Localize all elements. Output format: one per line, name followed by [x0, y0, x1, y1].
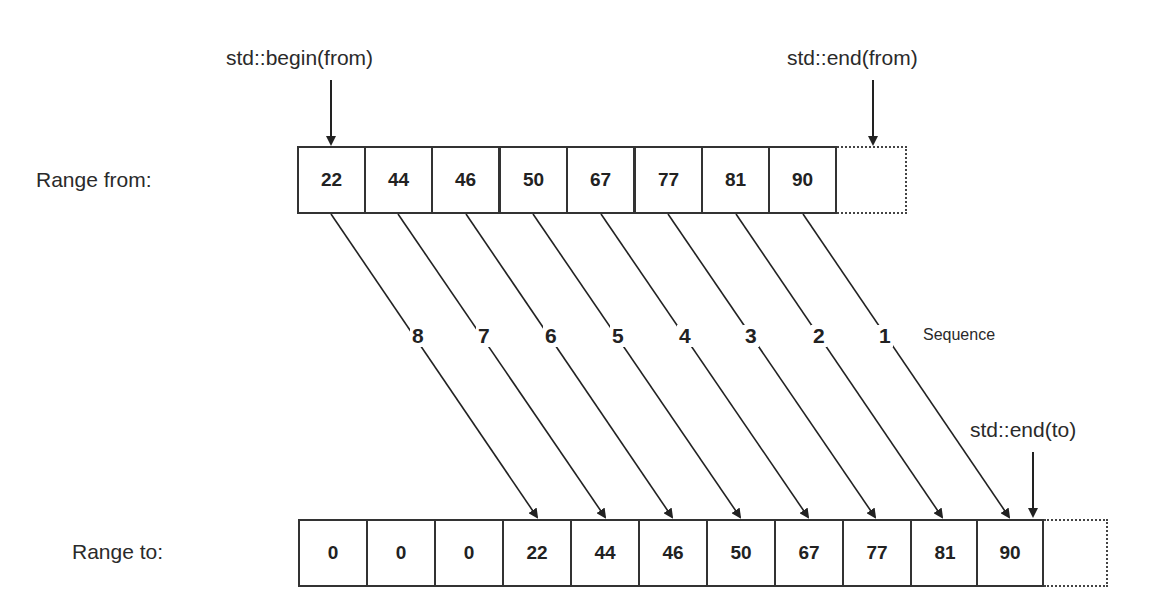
sequence-label: Sequence	[923, 326, 995, 344]
to-cell: 77	[842, 519, 912, 587]
to-cell: 67	[774, 519, 844, 587]
from-cell: 90	[768, 146, 837, 214]
to-cell: 46	[638, 519, 708, 587]
from-end-placeholder	[837, 146, 907, 214]
copy-arrow-8-icon	[331, 214, 537, 517]
sequence-step-2: 2	[811, 325, 827, 347]
to-cell: 0	[298, 519, 368, 587]
to-cell: 0	[434, 519, 504, 587]
sequence-step-8: 8	[410, 325, 426, 347]
sequence-step-6: 6	[543, 325, 559, 347]
copy-arrow-6-icon	[466, 214, 672, 517]
from-cell: 50	[499, 146, 568, 214]
to-cell: 50	[706, 519, 776, 587]
from-cell: 67	[566, 146, 635, 214]
from-cell: 81	[701, 146, 770, 214]
to-cell: 0	[366, 519, 436, 587]
copy-arrow-1-icon	[803, 214, 1009, 517]
sequence-step-7: 7	[476, 325, 492, 347]
to-cell: 90	[976, 519, 1044, 587]
sequence-step-5: 5	[610, 325, 626, 347]
to-cell: 44	[570, 519, 640, 587]
from-cell: 77	[634, 146, 703, 214]
to-end-placeholder	[1044, 519, 1108, 587]
sequence-step-3: 3	[743, 325, 759, 347]
sequence-step-4: 4	[677, 325, 693, 347]
sequence-step-1: 1	[877, 325, 893, 347]
from-cell: 22	[297, 146, 366, 214]
copy-arrow-7-icon	[398, 214, 605, 517]
copy-arrow-4-icon	[601, 214, 808, 517]
copy-arrow-2-icon	[736, 214, 942, 517]
to-cell: 22	[502, 519, 572, 587]
copy-arrow-3-icon	[668, 214, 875, 517]
from-cell: 46	[431, 146, 500, 214]
to-cell: 81	[910, 519, 980, 587]
copy-arrow-5-icon	[533, 214, 740, 517]
from-cell: 44	[364, 146, 433, 214]
